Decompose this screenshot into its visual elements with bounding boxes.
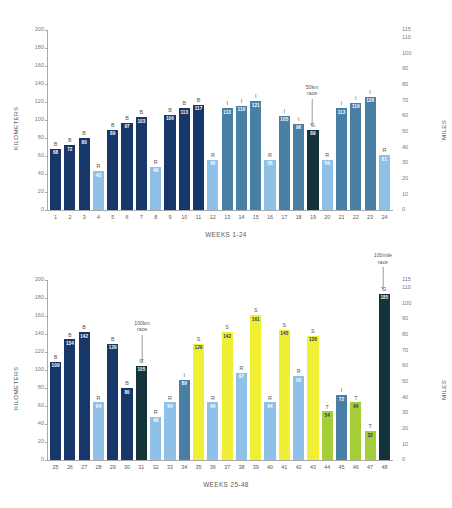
bar[interactable]: 97 <box>121 123 132 210</box>
bar[interactable]: 48 <box>150 167 161 210</box>
bar-column[interactable]: I12623 <box>365 30 376 210</box>
bar-column[interactable]: G18548 <box>379 280 390 460</box>
bar-column[interactable]: R6124 <box>379 30 390 210</box>
bar[interactable]: 89 <box>307 130 318 210</box>
bar[interactable]: 105 <box>279 116 290 211</box>
bar[interactable]: 89 <box>107 130 118 210</box>
bar[interactable]: 64 <box>264 402 275 460</box>
x-tick-label: 12 <box>207 215 218 220</box>
bar[interactable]: 64 <box>350 402 361 460</box>
bar-column[interactable]: R488 <box>150 30 161 210</box>
bar-column[interactable]: R6440 <box>264 280 275 460</box>
bar[interactable]: 48 <box>150 417 161 460</box>
bar[interactable]: 32 <box>365 431 376 460</box>
bar[interactable]: 121 <box>250 101 261 210</box>
bar-column[interactable]: B8030 <box>121 280 132 460</box>
bar[interactable]: 68 <box>50 149 61 210</box>
bar[interactable]: 134 <box>64 339 75 460</box>
bar[interactable]: 72 <box>64 145 75 210</box>
bar[interactable]: 129 <box>107 344 118 460</box>
bar[interactable]: 61 <box>379 155 390 210</box>
bar[interactable]: 80 <box>121 388 132 460</box>
bar[interactable]: 54 <box>322 411 333 460</box>
bar-column[interactable]: B11711 <box>193 30 204 210</box>
bar-column[interactable]: B13426 <box>64 280 75 460</box>
bar[interactable]: 117 <box>193 105 204 210</box>
bar-column[interactable]: R5612 <box>207 30 218 210</box>
bar[interactable]: 80 <box>79 138 90 210</box>
bar-column[interactable]: T6446 <box>350 280 361 460</box>
bar[interactable]: 56 <box>207 160 218 210</box>
bar[interactable]: 103 <box>136 117 147 210</box>
bar-column[interactable]: G10531 <box>136 280 147 460</box>
bar-column[interactable]: R5616 <box>264 30 275 210</box>
bar-column[interactable]: R6433 <box>164 280 175 460</box>
bar-type-label: I <box>336 388 347 393</box>
bar[interactable]: 113 <box>179 108 190 210</box>
bar[interactable]: 106 <box>164 115 175 210</box>
bar[interactable]: 119 <box>350 103 361 210</box>
bar[interactable]: 142 <box>222 332 233 460</box>
bar-column[interactable]: B11310 <box>179 30 190 210</box>
bar[interactable]: 116 <box>236 106 247 210</box>
bar-column[interactable]: I11321 <box>336 30 347 210</box>
bar[interactable]: 64 <box>93 402 104 460</box>
bar-column[interactable]: I10517 <box>279 30 290 210</box>
bar[interactable]: 64 <box>207 402 218 460</box>
bar-column[interactable]: I11614 <box>236 30 247 210</box>
bar-column[interactable]: S16139 <box>250 280 261 460</box>
bar-column[interactable]: I7245 <box>336 280 347 460</box>
bar-value-label: 96 <box>296 126 301 131</box>
bar[interactable]: 93 <box>293 376 304 460</box>
bar[interactable]: 185 <box>379 294 390 461</box>
bar-column[interactable]: I11922 <box>350 30 361 210</box>
bar-column[interactable]: B1037 <box>136 30 147 210</box>
bar[interactable]: 72 <box>336 395 347 460</box>
bar-column[interactable]: I12115 <box>250 30 261 210</box>
bar[interactable]: 145 <box>279 330 290 461</box>
bar-column[interactable]: G8919 <box>307 30 318 210</box>
bar-column[interactable]: R9342 <box>293 280 304 460</box>
bar-column[interactable]: B14227 <box>79 280 90 460</box>
bar-column[interactable]: R4832 <box>150 280 161 460</box>
bar[interactable]: 138 <box>307 336 318 460</box>
bar-column[interactable]: S14237 <box>222 280 233 460</box>
bar-column[interactable]: B1069 <box>164 30 175 210</box>
bar-column[interactable]: T3247 <box>365 280 376 460</box>
bar-column[interactable]: B803 <box>79 30 90 210</box>
bar-column[interactable]: B681 <box>50 30 61 210</box>
bar-column[interactable]: S14541 <box>279 280 290 460</box>
bar[interactable]: 105 <box>136 366 147 461</box>
bar[interactable]: 126 <box>365 97 376 210</box>
bar[interactable]: 113 <box>222 108 233 210</box>
bar-column[interactable]: B12929 <box>107 280 118 460</box>
bar-column[interactable]: S13843 <box>307 280 318 460</box>
bar[interactable]: 96 <box>293 124 304 210</box>
bar-column[interactable]: B976 <box>121 30 132 210</box>
bar-column[interactable]: B722 <box>64 30 75 210</box>
bar[interactable]: 56 <box>322 160 333 210</box>
bar[interactable]: 142 <box>79 332 90 460</box>
bar-column[interactable]: R434 <box>93 30 104 210</box>
bar-column[interactable]: R9738 <box>236 280 247 460</box>
bar[interactable]: 43 <box>93 171 104 210</box>
bar-column[interactable]: S12935 <box>193 280 204 460</box>
bar[interactable]: 109 <box>50 362 61 460</box>
bar-column[interactable]: I9618 <box>293 30 304 210</box>
bar[interactable]: 161 <box>250 315 261 460</box>
bar[interactable]: 129 <box>193 344 204 460</box>
bar-column[interactable]: R6428 <box>93 280 104 460</box>
bar[interactable]: 97 <box>236 373 247 460</box>
bar-column[interactable]: R6436 <box>207 280 218 460</box>
bar-column[interactable]: B10925 <box>50 280 61 460</box>
bar[interactable]: 56 <box>264 160 275 210</box>
bar-value-label: 119 <box>352 105 360 110</box>
bar[interactable]: 64 <box>164 402 175 460</box>
bar-column[interactable]: T5444 <box>322 280 333 460</box>
bar-column[interactable]: B895 <box>107 30 118 210</box>
bar-column[interactable]: I8934 <box>179 280 190 460</box>
bar[interactable]: 89 <box>179 380 190 460</box>
bar[interactable]: 113 <box>336 108 347 210</box>
bar-column[interactable]: I11313 <box>222 30 233 210</box>
bar-column[interactable]: R5620 <box>322 30 333 210</box>
